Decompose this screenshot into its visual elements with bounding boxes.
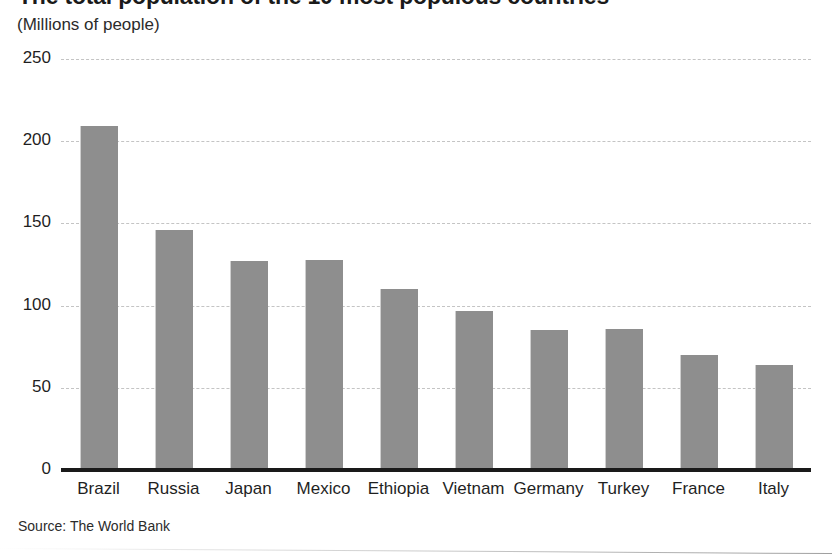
y-tick-label-200: 200 xyxy=(5,130,51,150)
x-tick-label-russia: Russia xyxy=(136,479,211,499)
x-tick-label-italy: Italy xyxy=(736,479,811,499)
x-tick-label-japan: Japan xyxy=(211,479,286,499)
gridline-150 xyxy=(61,223,811,224)
x-tick-label-france: France xyxy=(661,479,736,499)
bar-italy xyxy=(755,365,793,470)
bar-turkey xyxy=(605,329,643,470)
x-tick-label-turkey: Turkey xyxy=(586,479,661,499)
gridline-250 xyxy=(61,59,811,60)
x-tick-label-germany: Germany xyxy=(511,479,586,499)
chart-figure: The total population of the 10 most popu… xyxy=(0,0,832,556)
y-tick-label-100: 100 xyxy=(5,295,51,315)
bar-germany xyxy=(530,330,568,470)
x-tick-label-vietnam: Vietnam xyxy=(436,479,511,499)
gridline-200 xyxy=(61,141,811,142)
y-tick-label-50: 50 xyxy=(5,377,51,397)
x-axis-baseline xyxy=(61,468,811,472)
source-note: Source: The World Bank xyxy=(18,518,170,534)
y-tick-label-150: 150 xyxy=(5,212,51,232)
x-tick-label-brazil: Brazil xyxy=(61,479,136,499)
bar-japan xyxy=(230,261,268,470)
y-tick-label-250: 250 xyxy=(5,48,51,68)
bar-brazil xyxy=(80,126,118,470)
x-tick-label-ethiopia: Ethiopia xyxy=(361,479,436,499)
bar-vietnam xyxy=(455,311,493,470)
y-tick-label-0: 0 xyxy=(5,459,51,479)
bar-russia xyxy=(155,230,193,470)
x-tick-label-mexico: Mexico xyxy=(286,479,361,499)
bar-ethiopia xyxy=(380,289,418,470)
plot-area: 050100150200250 BrazilRussiaJapanMexicoE… xyxy=(0,0,832,556)
bar-mexico xyxy=(305,260,343,470)
bar-france xyxy=(680,355,718,470)
